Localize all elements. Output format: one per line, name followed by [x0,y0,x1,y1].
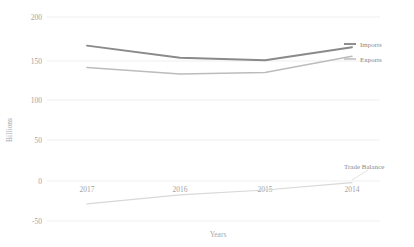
legend-label-exports: Exports [360,56,382,64]
y-tick-label-200: 200 [31,13,43,22]
x-axis-title: Years [210,230,227,239]
legend: Imports Exports Trade Balance [344,41,384,180]
legend-label-trade-balance: Trade Balance [344,163,384,171]
x-tick-label-2017: 2017 [80,185,95,194]
x-tick-label-2014: 2014 [345,185,360,194]
series-line-trade-balance [87,183,352,204]
chart-container: 200 150 100 50 0 -50 Billions 2017 2016 … [0,0,414,247]
legend-leader-line-trade-balance [352,170,368,180]
y-axis-title: Billions [5,118,14,142]
y-tick-label-neg50: -50 [32,217,42,226]
y-axis-tick-labels: 200 150 100 50 0 -50 [31,13,43,226]
x-tick-label-2016: 2016 [173,185,188,194]
line-chart: 200 150 100 50 0 -50 Billions 2017 2016 … [0,0,414,247]
y-tick-label-50: 50 [35,136,43,145]
y-tick-label-100: 100 [31,96,43,105]
legend-label-imports: Imports [360,41,382,49]
y-tick-label-150: 150 [31,57,43,66]
data-series [87,46,352,204]
series-line-imports [87,46,352,61]
y-tick-label-0: 0 [38,177,42,186]
